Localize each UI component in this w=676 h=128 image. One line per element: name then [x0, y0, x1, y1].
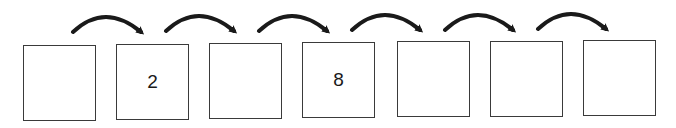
arrow-icon-4: [352, 15, 420, 30]
arrow-icon-2: [166, 16, 234, 31]
arrow-icon-5: [445, 15, 513, 30]
box-value: 8: [333, 69, 344, 91]
sequence-box-5: [397, 41, 470, 117]
arrow-icon-1: [73, 17, 141, 32]
sequence-box-3: [209, 43, 282, 119]
sequence-box-4: 8: [302, 42, 375, 118]
sequence-box-2: 2: [116, 44, 189, 120]
sequence-box-7: [583, 40, 656, 116]
sequence-box-6: [490, 41, 563, 117]
sequence-box-1: [23, 45, 96, 121]
arrow-icon-3: [259, 16, 327, 31]
arrow-icon-6: [538, 14, 606, 29]
box-value: 2: [147, 71, 158, 93]
